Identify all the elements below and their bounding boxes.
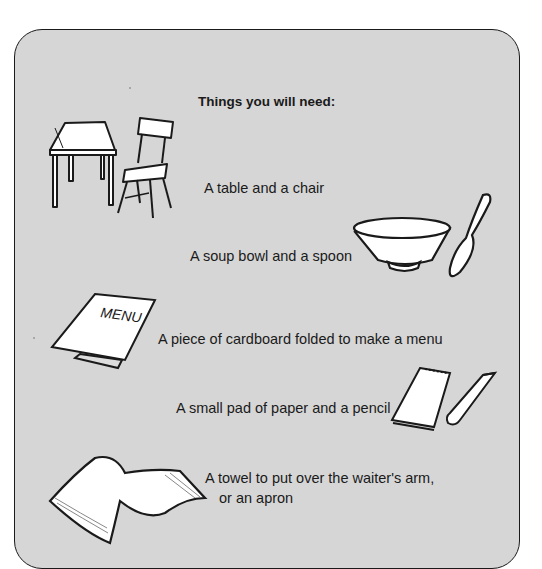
towel-icon bbox=[45, 453, 210, 545]
table-chair-icon bbox=[45, 108, 175, 218]
item-label-menu: A piece of cardboard folded to make a me… bbox=[158, 331, 443, 347]
item-label-towel-line1: A towel to put over the waiter's arm, bbox=[205, 470, 434, 486]
bowl-spoon-icon bbox=[350, 190, 520, 290]
menu-card-icon: MENU bbox=[50, 292, 160, 367]
speck bbox=[33, 337, 35, 339]
speck bbox=[129, 87, 131, 89]
item-label-bowl-spoon: A soup bowl and a spoon bbox=[190, 248, 352, 264]
page-heading: Things you will need: bbox=[198, 94, 335, 109]
item-label-table-chair: A table and a chair bbox=[204, 180, 324, 196]
item-label-notepad-pencil: A small pad of paper and a pencil bbox=[176, 400, 390, 416]
item-label-towel-line2: or an apron bbox=[219, 490, 293, 506]
notepad-pencil-icon bbox=[390, 365, 500, 435]
